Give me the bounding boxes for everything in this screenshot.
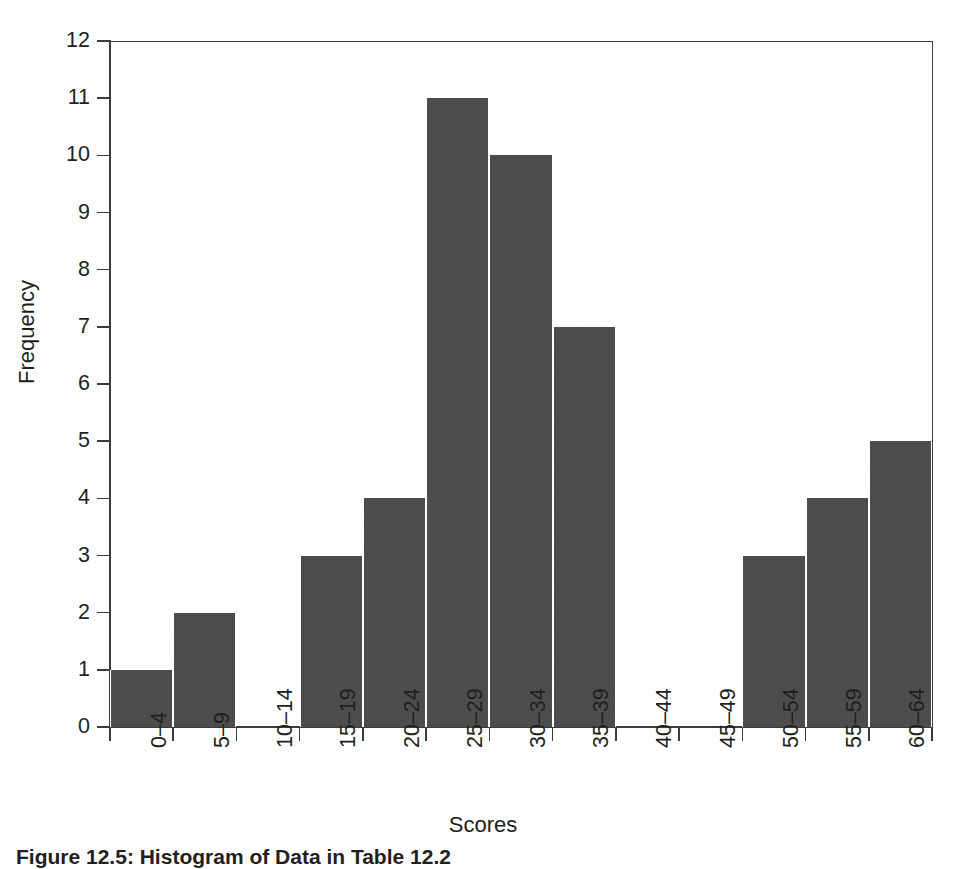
y-axis-tick-label: 1 bbox=[48, 659, 90, 681]
y-axis-tick bbox=[97, 383, 110, 385]
y-axis-tick bbox=[97, 212, 110, 214]
x-axis-tick bbox=[931, 727, 933, 741]
bars-layer bbox=[110, 41, 932, 727]
x-axis-tick bbox=[615, 727, 617, 741]
x-axis-tick bbox=[678, 727, 680, 741]
y-axis-tick-label: 9 bbox=[48, 202, 90, 224]
y-axis-tick bbox=[97, 726, 110, 728]
y-axis-tick bbox=[97, 669, 110, 671]
histogram-bar bbox=[869, 441, 932, 727]
x-axis-tick bbox=[362, 727, 364, 741]
y-axis-tick bbox=[97, 440, 110, 442]
y-axis-tick bbox=[97, 612, 110, 614]
x-axis-tick bbox=[489, 727, 491, 741]
x-axis-tick-label-text: 30–34 bbox=[528, 688, 550, 748]
x-axis-tick-label-text: 45–49 bbox=[718, 688, 740, 748]
x-axis-tick bbox=[425, 727, 427, 741]
x-axis-tick bbox=[299, 727, 301, 741]
x-axis-tick bbox=[109, 727, 111, 741]
x-axis-tick-label-text: 55–59 bbox=[844, 688, 866, 748]
x-axis-title: Scores bbox=[0, 812, 966, 838]
y-axis-tick-label: 6 bbox=[48, 373, 90, 395]
x-axis-tick-label-text: 40–44 bbox=[654, 688, 676, 748]
y-axis-tick bbox=[97, 155, 110, 157]
x-axis-tick bbox=[552, 727, 554, 741]
y-axis-tick-label: 8 bbox=[48, 259, 90, 281]
x-axis-tick bbox=[236, 727, 238, 741]
histogram-bar bbox=[489, 155, 552, 727]
x-axis-tick-label-text: 25–29 bbox=[465, 688, 487, 748]
x-axis-tick-label-text: 5–9 bbox=[212, 712, 234, 748]
y-axis-title: Frequency bbox=[14, 280, 40, 384]
x-axis-tick-label-text: 60–64 bbox=[907, 688, 929, 748]
x-axis-tick-label-text: 35–39 bbox=[591, 688, 613, 748]
histogram-bar bbox=[426, 98, 489, 727]
histogram-bar bbox=[553, 327, 616, 727]
y-axis-tick-label: 11 bbox=[48, 87, 90, 109]
x-axis-tick-label-text: 20–24 bbox=[402, 688, 424, 748]
y-axis-tick-label: 5 bbox=[48, 430, 90, 452]
y-axis-tick bbox=[97, 326, 110, 328]
y-axis-tick-label: 0 bbox=[48, 716, 90, 738]
y-axis-tick bbox=[97, 40, 110, 42]
y-axis-tick-label: 7 bbox=[48, 316, 90, 338]
x-axis-tick bbox=[805, 727, 807, 741]
figure-caption: Figure 12.5: Histogram of Data in Table … bbox=[16, 845, 451, 869]
y-axis-tick bbox=[97, 97, 110, 99]
x-axis-tick-label-text: 10–14 bbox=[275, 688, 297, 748]
x-axis-tick bbox=[742, 727, 744, 741]
y-axis-tick-label: 2 bbox=[48, 602, 90, 624]
y-axis-tick bbox=[97, 498, 110, 500]
x-axis-tick bbox=[172, 727, 174, 741]
x-axis-tick bbox=[868, 727, 870, 741]
x-axis-tick-label-text: 50–54 bbox=[781, 688, 803, 748]
y-axis-tick bbox=[97, 555, 110, 557]
y-axis-tick bbox=[97, 269, 110, 271]
x-axis-tick-label-text: 15–19 bbox=[338, 688, 360, 748]
y-axis-tick-label: 10 bbox=[48, 145, 90, 167]
histogram-bar bbox=[173, 613, 236, 727]
y-axis-tick-label: 12 bbox=[48, 30, 90, 52]
y-axis-tick-label: 4 bbox=[48, 488, 90, 510]
x-axis-tick-label-text: 0–4 bbox=[149, 712, 171, 748]
y-axis-tick-label: 3 bbox=[48, 545, 90, 567]
